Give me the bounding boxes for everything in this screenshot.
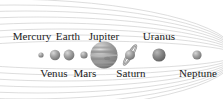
jupiter-band-2 <box>90 51 119 54</box>
planet-earth[interactable] <box>64 50 75 61</box>
planet-label-mars: Mars <box>73 68 96 79</box>
great-red-spot <box>104 57 110 60</box>
planet-mercury[interactable] <box>38 52 43 57</box>
jupiter-band-3 <box>90 55 119 57</box>
planet-body-mercury <box>38 52 43 57</box>
planet-body-saturn <box>125 50 135 60</box>
planet-body-neptune <box>192 50 201 59</box>
planet-venus[interactable] <box>50 50 60 60</box>
planet-label-neptune: Neptune <box>179 68 217 79</box>
planet-jupiter[interactable] <box>90 42 119 69</box>
planet-body-earth <box>64 50 75 61</box>
planet-body-mars <box>80 51 87 58</box>
planet-body-venus <box>50 50 60 60</box>
planet-group <box>38 42 201 69</box>
planet-saturn[interactable] <box>122 44 137 65</box>
jupiter-band-5 <box>90 62 119 64</box>
jupiter-band-1 <box>90 47 119 49</box>
planet-label-saturn: Saturn <box>116 68 145 79</box>
planet-label-jupiter: Jupiter <box>89 31 120 42</box>
planet-uranus[interactable] <box>152 48 165 61</box>
planet-bodies-layer <box>0 0 223 99</box>
planet-body-uranus <box>152 48 165 61</box>
planet-label-mercury: Mercury <box>13 31 52 42</box>
planet-label-venus: Venus <box>40 68 67 79</box>
solar-system-diagram: MercuryVenusEarthMarsJupiterSaturnUranus… <box>0 0 223 99</box>
jupiter-band-4 <box>90 58 119 61</box>
planet-mars[interactable] <box>80 51 87 58</box>
planet-label-earth: Earth <box>56 31 80 42</box>
planet-neptune[interactable] <box>192 50 201 59</box>
planet-label-uranus: Uranus <box>143 31 175 42</box>
